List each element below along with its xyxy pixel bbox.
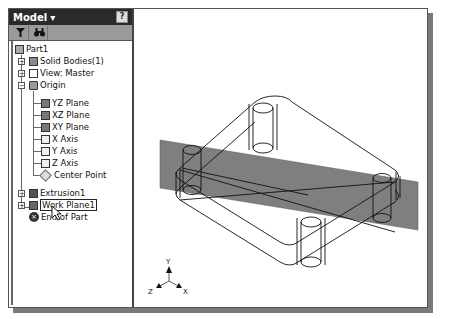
solid-bodies-icon [29,57,38,66]
tree-item-origin[interactable]: Origin [29,79,66,91]
tree-item-label: X Axis [52,134,78,144]
panel-title: Model [13,12,47,23]
tree-item-label: Origin [40,80,66,90]
part-icon [15,45,24,54]
tree-item-label: XZ Plane [52,110,90,120]
tree-item-y-axis[interactable]: Y Axis [41,145,78,157]
expand-toggle[interactable]: + [18,190,25,197]
expand-toggle[interactable]: + [18,58,25,65]
3d-model-view: Y Z X [134,9,427,307]
tree-item-label: Z Axis [52,158,78,168]
model-tree: Part1 + Solid Bodies(1) + View: Master −… [11,41,130,305]
filter-button[interactable] [12,26,29,40]
folder-icon [29,81,38,90]
axis-icon [41,147,50,156]
end-of-part-icon: × [29,212,39,222]
filter-icon [16,28,25,37]
tree-item-view-master[interactable]: View: Master [29,67,94,79]
tree-item-extrusion1[interactable]: Extrusion1 [29,187,85,199]
browser-toolbar [9,25,132,41]
tree-item-xy-plane[interactable]: XY Plane [41,121,89,133]
find-button[interactable] [31,26,48,40]
binoculars-icon [34,28,45,37]
tree-connector [33,103,41,104]
tree-connector [33,115,41,116]
model-dropdown[interactable]: Model ▾ [13,12,55,23]
view-icon [29,69,38,78]
tree-item-label: YZ Plane [52,98,89,108]
center-point-icon [39,169,52,182]
coordinate-triad: Y Z X [148,258,188,296]
tree-item-label: Part1 [26,44,48,54]
work-plane-icon [29,201,38,210]
help-button[interactable]: ? [116,11,128,23]
tree-connector [33,127,41,128]
tree-item-xz-plane[interactable]: XZ Plane [41,109,90,121]
z-axis-label: Z [148,288,153,296]
plane-icon [41,99,50,108]
tree-item-label: Center Point [54,170,106,180]
tree-connector [33,151,41,152]
tree-item-label: Y Axis [52,146,78,156]
tree-item-solid-bodies[interactable]: Solid Bodies(1) [29,55,104,67]
tree-connector [33,163,41,164]
tree-item-yz-plane[interactable]: YZ Plane [41,97,89,109]
mouse-cursor-icon [51,205,65,221]
tree-item-z-axis[interactable]: Z Axis [41,157,78,169]
expand-toggle[interactable]: + [18,70,25,77]
plane-icon [41,111,50,120]
tree-item-center-point[interactable]: Center Point [41,169,106,181]
y-axis-label: Y [165,258,171,266]
collapse-toggle[interactable]: − [18,82,25,89]
tree-item-part1[interactable]: Part1 [15,43,48,55]
x-axis-label: X [183,288,188,296]
tree-item-label: View: Master [40,68,94,78]
tree-item-label: Work Plane1 [40,199,97,211]
extrusion-icon [29,189,38,198]
graphics-viewport[interactable]: Y Z X [134,9,427,307]
tree-item-label: Solid Bodies(1) [40,56,104,66]
panel-header: Model ▾ ? [9,9,132,25]
plane-icon [41,123,50,132]
model-browser-panel: Model ▾ ? [9,9,134,307]
axis-icon [41,135,50,144]
tree-item-x-axis[interactable]: X Axis [41,133,78,145]
tree-item-label: XY Plane [52,122,89,132]
application-frame: Model ▾ ? [8,8,428,308]
tree-item-label: Extrusion1 [40,188,85,198]
tree-connector [33,139,41,140]
expand-toggle[interactable]: + [18,202,25,209]
chevron-down-icon: ▾ [50,12,55,23]
axis-icon [41,159,50,168]
